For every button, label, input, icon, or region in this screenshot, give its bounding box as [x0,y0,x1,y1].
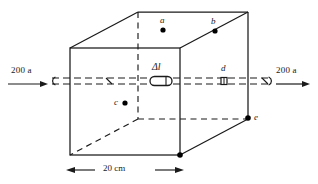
current-arrow-right [276,81,310,87]
current-arrow-left-head-icon [40,81,48,87]
delta-l-element [150,77,172,86]
point-a-dot [160,27,165,32]
cube-diagram-svg [0,0,318,184]
wire-tick-left [106,78,112,84]
point-a-label: a [160,16,165,25]
wire-cap-right-icon [269,77,271,85]
current-arrow-right-head-icon [302,81,310,87]
current-arrow-left [8,81,48,87]
point-markers [122,27,250,157]
hidden-edge-bottom-left-diagonal [70,119,138,155]
point-b-dot [212,28,217,33]
wire-tick-right [262,78,268,84]
dimension-label-width: 20 cm [103,164,125,173]
vertex-front-bottom-right-dot [177,152,183,158]
figure-container: 200 a 200 a Δl a b c d e 20 cm [0,0,318,184]
point-c-label: c [114,98,118,107]
dimension-arrow-right-icon [175,167,184,173]
current-label-left: 200 a [11,66,32,75]
dimension-arrow-left-icon [66,167,75,173]
edge-bottom-right-diagonal [180,119,248,155]
point-b-label: b [211,17,216,26]
point-c-dot [122,100,127,105]
edge-top-left-diagonal [70,12,138,48]
delta-l-label: Δl [152,62,161,72]
point-e-label: e [254,113,258,122]
current-label-right: 200 a [276,66,297,75]
wire-segment-ticks [106,78,268,84]
point-e-dot [245,115,251,121]
point-d-label: d [221,64,226,73]
